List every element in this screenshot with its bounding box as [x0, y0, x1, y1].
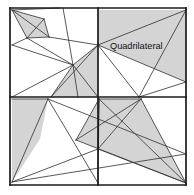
quadrilateral-diagram-root: Quadrilateral: [0, 0, 194, 195]
quadrilateral-label: Quadrilateral: [110, 41, 163, 51]
quadrilateral-diagram-svg: Quadrilateral: [0, 0, 194, 195]
